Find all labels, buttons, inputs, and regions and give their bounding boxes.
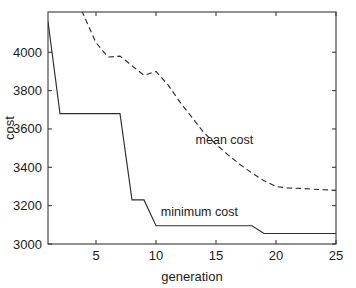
cost-vs-generation-chart: 300032003400360038004000 510152025 mean …	[0, 0, 356, 288]
x-tick-label: 15	[209, 248, 223, 263]
y-tick-label: 3800	[13, 83, 42, 98]
y-tick-label: 4000	[13, 45, 42, 60]
y-tick-label: 3400	[13, 160, 42, 175]
x-tick-label: 25	[329, 248, 343, 263]
y-tick-label: 3600	[13, 121, 42, 136]
x-tick-label: 10	[149, 248, 163, 263]
x-tick-label: 5	[92, 248, 99, 263]
series-line-mean-cost	[48, 0, 336, 190]
chart-figure: 300032003400360038004000 510152025 mean …	[0, 0, 356, 288]
y-tick-label: 3200	[13, 198, 42, 213]
data-series-group	[48, 0, 336, 233]
series-line-minimum-cost	[48, 22, 336, 234]
annotation-minimum-cost: minimum cost	[161, 205, 239, 219]
x-tick-label: 20	[269, 248, 283, 263]
y-axis-title: cost	[2, 116, 17, 140]
annotation-mean-cost: mean cost	[196, 133, 254, 147]
series-annotations: mean costminimum cost	[161, 133, 254, 219]
x-axis-title: generation	[161, 269, 222, 284]
y-axis-ticks: 300032003400360038004000	[13, 45, 336, 252]
y-tick-label: 3000	[13, 237, 42, 252]
